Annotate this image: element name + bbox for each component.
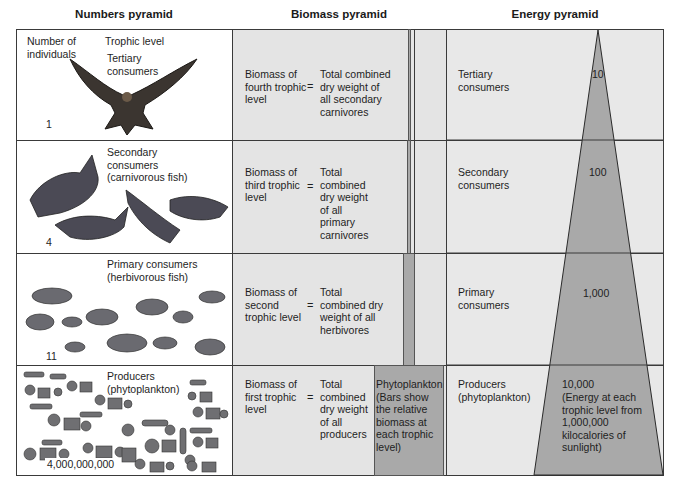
biomass-fourth-right: Total combined dry weight of all seconda… (320, 68, 392, 118)
numbers-pyramid-header: Numbers pyramid (16, 8, 232, 20)
biomass-third-right: Total combined dry weight of all primary… (320, 166, 370, 241)
energy-tertiary-label: Tertiary consumers (458, 68, 518, 93)
equals-sign: = (307, 391, 313, 403)
biomass-second-right: Total combined dry weight of all herbivo… (320, 286, 386, 336)
phytoplankton-bar-note: Phytoplankton (Bars show the relative bi… (376, 378, 444, 453)
biomass-first-left: Biomass of first trophic level (245, 378, 305, 416)
producers-count: 4,000,000,000 (45, 458, 116, 470)
primary-consumers-label: Primary consumers (herbivorous fish) (107, 258, 202, 283)
energy-tertiary-value: 10 (592, 68, 604, 81)
biomass-bar-second (403, 253, 415, 366)
bar-guide-line (414, 29, 415, 254)
energy-secondary-label: Secondary consumers (458, 166, 518, 191)
tertiary-consumers-label: Tertiary consumers (107, 52, 167, 77)
biomass-second-left: Biomass of second trophic level (245, 286, 307, 324)
biomass-bar-fourth (408, 29, 411, 141)
equals-sign: = (307, 299, 313, 311)
energy-producers-value: 10,000 (562, 378, 594, 391)
energy-secondary-value: 100 (589, 166, 607, 179)
biomass-bar-third (407, 140, 411, 254)
biomass-third-left: Biomass of third trophic level (245, 166, 305, 204)
primary-consumers-count: 11 (46, 350, 57, 362)
energy-primary-label: Primary consumers (458, 286, 518, 311)
producers-label: Producers (phytoplankton) (107, 370, 187, 395)
energy-note: (Energy at each trophic level from 1,000… (562, 391, 642, 454)
energy-producers-label: Producers (phytoplankton) (458, 378, 538, 403)
secondary-consumers-count: 4 (46, 236, 52, 248)
tertiary-consumers-count: 1 (46, 118, 52, 130)
secondary-consumers-label: Secondary consumers (carnivorous fish) (107, 146, 202, 184)
biomass-fourth-left: Biomass of fourth trophic level (245, 68, 307, 106)
equals-sign: = (307, 80, 313, 92)
biomass-first-right: Total combined dry weight of all produce… (320, 378, 370, 441)
biomass-pyramid-header: Biomass pyramid (232, 8, 446, 20)
energy-pyramid-header: Energy pyramid (446, 8, 664, 20)
trophic-level-label: Trophic level (105, 35, 164, 48)
energy-primary-value: 1,000 (583, 287, 609, 300)
equals-sign: = (307, 180, 313, 192)
